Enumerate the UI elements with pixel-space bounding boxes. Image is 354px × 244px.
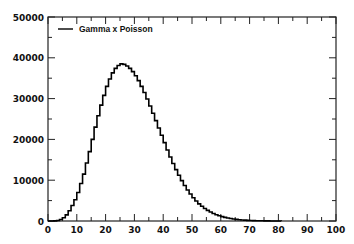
histogram-chart: 0102030405060708090100010000200003000040… (0, 0, 354, 244)
x-tick-label: 70 (243, 225, 256, 235)
x-tick-label: 50 (186, 225, 199, 235)
x-tick-label: 10 (71, 225, 84, 235)
y-tick-label: 50000 (13, 13, 44, 23)
legend-label: Gamma x Poisson (79, 24, 153, 34)
x-tick-label: 100 (327, 225, 346, 235)
x-tick-label: 40 (157, 225, 170, 235)
x-tick-label: 60 (215, 225, 228, 235)
y-tick-label: 40000 (13, 53, 44, 63)
y-tick-label: 20000 (13, 135, 44, 145)
axes-frame (48, 17, 336, 221)
x-tick-label: 20 (99, 225, 112, 235)
x-tick-label: 90 (301, 225, 314, 235)
y-tick-label: 10000 (13, 176, 44, 186)
axis-ticks (48, 17, 336, 221)
histogram-series-gamma-x-poisson (48, 64, 281, 221)
x-tick-label: 0 (45, 225, 51, 235)
y-tick-label: 0 (38, 217, 44, 227)
x-tick-label: 80 (272, 225, 285, 235)
tick-labels: 0102030405060708090100010000200003000040… (13, 13, 346, 236)
y-tick-label: 30000 (13, 94, 44, 104)
x-tick-label: 30 (128, 225, 141, 235)
legend: Gamma x Poisson (58, 24, 153, 34)
